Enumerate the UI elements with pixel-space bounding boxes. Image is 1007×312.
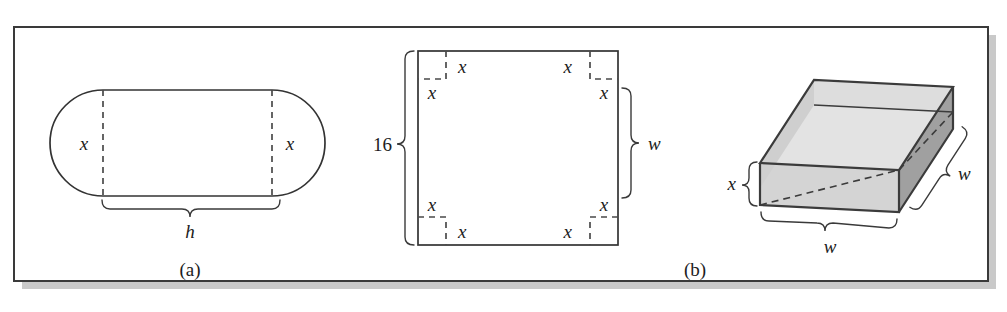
label-x-br-vertical: x <box>563 221 573 242</box>
caption-b: (b) <box>684 259 706 281</box>
label-w-square: w <box>648 133 661 154</box>
label-x-tr-horizontal: x <box>599 82 609 103</box>
label-x-left: x <box>79 133 89 154</box>
label-x-right: x <box>285 133 295 154</box>
label-x-bl-horizontal: x <box>427 194 437 215</box>
label-x-br-horizontal: x <box>599 194 609 215</box>
figure-canvas: x x h (a) x x x x <box>0 0 1007 312</box>
label-16: 16 <box>373 134 392 155</box>
label-x-box: x <box>727 173 737 194</box>
label-x-tl-vertical: x <box>457 56 467 77</box>
label-h: h <box>185 221 195 242</box>
label-x-tr-vertical: x <box>563 56 573 77</box>
label-x-tl-horizontal: x <box>427 82 437 103</box>
label-x-bl-vertical: x <box>457 221 467 242</box>
box-front-face <box>760 163 899 212</box>
figure-page: x x h (a) x x x x <box>0 0 1007 312</box>
label-w-depth: w <box>958 163 971 184</box>
caption-a: (a) <box>179 259 200 281</box>
label-w-width: w <box>824 236 837 257</box>
